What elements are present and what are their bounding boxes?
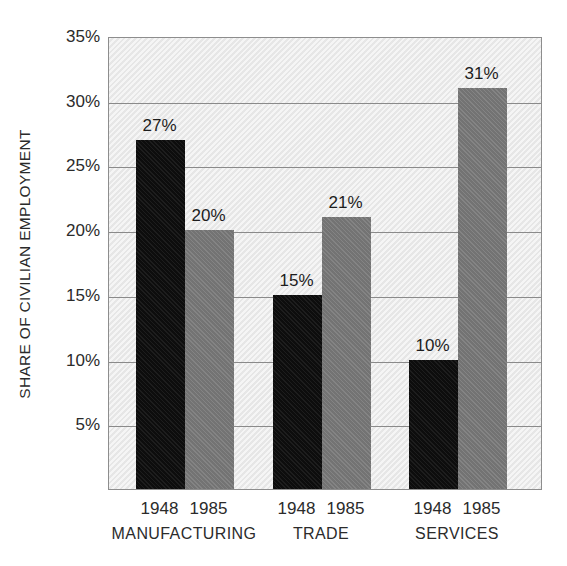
y-axis-tick-5pct: 5% (44, 415, 100, 435)
x-axis-year-services-1985: 1985 (463, 499, 501, 519)
y-axis-tick-10pct: 10% (44, 351, 100, 371)
y-axis-tick-20pct: 20% (44, 221, 100, 241)
value-label-services-1985: 31% (464, 64, 498, 84)
value-label-services-1948: 10% (415, 336, 449, 356)
bar-services-1985 (458, 88, 507, 489)
x-axis-year-manufacturing-1985: 1985 (190, 499, 228, 519)
y-axis-tick-35pct: 35% (44, 27, 100, 47)
bar-trade-1948 (273, 295, 322, 489)
y-axis-tick-15pct: 15% (44, 286, 100, 306)
y-axis-title: SHARE OF CIVILIAN EMPLOYMENT (12, 38, 38, 490)
x-axis-year-trade-1948: 1948 (278, 499, 316, 519)
bar-manufacturing-1985 (185, 230, 234, 489)
bar-trade-1985 (322, 217, 371, 489)
x-axis-year-manufacturing-1948: 1948 (141, 499, 179, 519)
plot-area (108, 37, 542, 490)
x-axis-category-services: SERVICES (415, 525, 499, 543)
x-axis-year-trade-1985: 1985 (327, 499, 365, 519)
value-label-manufacturing-1985: 20% (191, 206, 225, 226)
y-axis-tick-30pct: 30% (44, 92, 100, 112)
y-axis-tick-25pct: 25% (44, 156, 100, 176)
value-label-trade-1985: 21% (328, 193, 362, 213)
value-label-trade-1948: 15% (279, 271, 313, 291)
x-axis-category-manufacturing: MANUFACTURING (112, 525, 257, 543)
x-axis-category-trade: TRADE (293, 525, 349, 543)
bar-manufacturing-1948 (136, 140, 185, 489)
value-label-manufacturing-1948: 27% (142, 116, 176, 136)
bar-chart: SHARE OF CIVILIAN EMPLOYMENT 5%10%15%20%… (0, 0, 567, 566)
x-axis-year-services-1948: 1948 (414, 499, 452, 519)
y-axis-tick-labels: 5%10%15%20%25%30%35% (44, 0, 100, 566)
bar-services-1948 (409, 360, 458, 489)
